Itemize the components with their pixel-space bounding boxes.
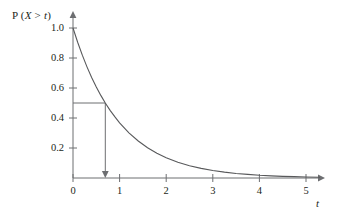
x-tick-label-1: 1	[112, 186, 128, 197]
median-guide-arrowhead	[102, 171, 109, 178]
y-tick-label-0.8: 0.8	[38, 53, 64, 64]
x-tick-label-3: 3	[205, 186, 221, 197]
x-axis-arrowhead	[318, 175, 325, 182]
y-axis-title-relation: >	[32, 9, 44, 21]
x-tick-label-4: 4	[251, 186, 267, 197]
x-tick-label-5: 5	[298, 186, 314, 197]
y-axis-title-prefix: P (	[12, 9, 25, 21]
y-axis-title-variable: X	[25, 9, 32, 21]
y-tick-label-0.6: 0.6	[38, 83, 64, 94]
y-axis-title: P (X > t)	[12, 10, 51, 21]
x-tick-label-2: 2	[158, 186, 174, 197]
x-axis-title: t	[316, 198, 319, 209]
y-axis-title-suffix: )	[47, 9, 51, 21]
x-tick-label-0: 0	[65, 186, 81, 197]
exponential-survival-figure: P (X > t) t 1.0 0.8 0.6 0.4 0.2 0 1 2 3 …	[0, 0, 337, 218]
survival-curve	[73, 28, 320, 177]
y-tick-label-1.0: 1.0	[38, 23, 64, 34]
y-tick-label-0.4: 0.4	[38, 113, 64, 124]
y-axis-arrowhead	[70, 11, 77, 18]
y-tick-label-0.2: 0.2	[38, 143, 64, 154]
